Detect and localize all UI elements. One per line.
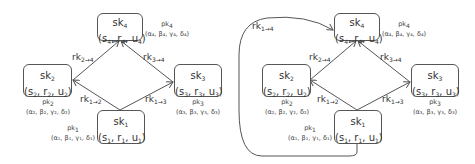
edge-label-rk-1-3: rk1→3 <box>145 94 167 105</box>
key-hierarchy-diagram-right: sk4 (s4, r4, u4) pk4 (α₄, β₄, γ₄, δ₄) sk… <box>237 0 475 164</box>
node-sk3: sk3 (s3, r3, u3) <box>411 64 459 97</box>
edge-label-rk-1-3: rk1→3 <box>382 94 404 105</box>
node-sk3: sk3 (s3, r3, u3) <box>174 64 222 97</box>
node-sk2: sk2 (s2, r2, u2) <box>262 64 311 97</box>
pk4-label: pk4 (α₄, β₄, γ₄, δ₄) <box>143 20 191 38</box>
edge-label-rk-1-2: rk1→2 <box>317 94 339 105</box>
pk2-label: pk2 (α₂, β₂, γ₂, δ₂) <box>20 98 76 116</box>
node-sk4: sk4 (s4, r4, u4) <box>97 13 143 41</box>
pk3-label: pk3 (α₃, β₃, γ₃, δ₃) <box>407 98 463 116</box>
edge-label-rk-2-4: rk2→4 <box>72 52 94 63</box>
pk3-label: pk3 (α₃, β₃, γ₃, δ₃) <box>170 98 226 116</box>
edge-label-rk-1-2: rk1→2 <box>80 94 102 105</box>
node-sk4: sk4 (s4, r4, u4) <box>334 13 380 41</box>
pk1-label: pk1 (α₁, β₁, γ₁, δ₁) <box>48 124 98 142</box>
edge-label-rk-1-4: rk1→4 <box>252 21 274 32</box>
node-sk1: sk1 (s1, r1, u1) <box>97 110 145 144</box>
pk1-label: pk1 (α₁, β₁, γ₁, δ₁) <box>285 124 335 142</box>
edge-label-rk-2-4: rk2→4 <box>309 52 331 63</box>
node-sk1: sk1 (s1, r1, u1) <box>334 110 382 144</box>
edge-label-rk-3-4: rk3→4 <box>380 52 402 63</box>
node-sk2: sk2 (s2, r2, u2) <box>23 64 72 97</box>
edge-label-rk-3-4: rk3→4 <box>143 52 165 63</box>
key-hierarchy-diagram-left: sk4 (s4, r4, u4) pk4 (α₄, β₄, γ₄, δ₄) sk… <box>0 0 238 164</box>
pk4-label: pk4 (α₄, β₄, γ₄, δ₄) <box>380 20 428 38</box>
pk2-label: pk2 (α₂, β₂, γ₂, δ₂) <box>259 98 315 116</box>
